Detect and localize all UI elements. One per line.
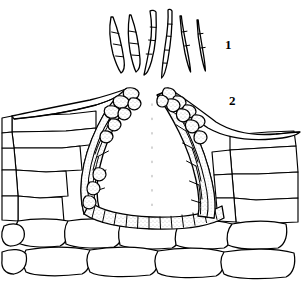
host-cell [2,224,25,246]
host-cell [227,221,287,249]
host-cell [16,170,68,198]
figure-root: 1 2 [0,0,301,290]
host-cell [155,248,225,278]
figure-label-2: 2 [229,94,236,107]
septum [149,40,155,41]
host-cell [221,249,295,279]
host-cell [234,198,298,224]
figure-label-1: 1 [225,38,232,51]
mycology-illustration [0,0,301,290]
septum [132,55,140,56]
host-cell [23,247,91,276]
host-cell [2,116,12,133]
host-cell [2,148,16,170]
host-cell [232,172,298,200]
septum [201,47,206,48]
septum [198,33,203,34]
host-cell [87,247,159,277]
host-cell [214,174,234,198]
host-cell [2,170,18,196]
host-cell [212,150,232,175]
host-cell [14,146,82,172]
host-cell [2,196,18,221]
host-cell [2,132,14,148]
host-cell [230,146,298,174]
